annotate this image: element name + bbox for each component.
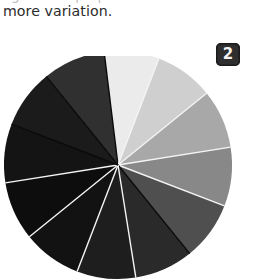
page-root: significant proportion of the variance, … [0, 0, 253, 280]
body-text-line: more variation. [3, 3, 243, 20]
pie-chart-svg [0, 56, 253, 280]
pie-chart-figure [0, 56, 253, 280]
